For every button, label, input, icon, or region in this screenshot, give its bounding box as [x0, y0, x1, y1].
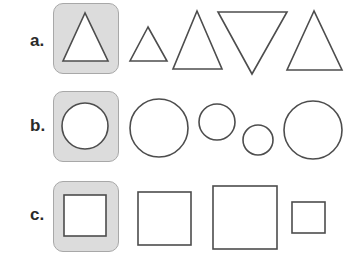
square-large [213, 186, 277, 249]
triangle-inverted [218, 12, 287, 74]
circle-medium [199, 104, 235, 140]
circle-large-1 [130, 99, 188, 157]
triangle-highlighted [63, 13, 108, 61]
circle-highlighted [62, 103, 108, 149]
shapes-canvas [0, 0, 356, 256]
triangle-medium [173, 11, 222, 69]
circle-large-2 [284, 101, 342, 159]
triangle-large [287, 11, 342, 70]
triangle-small [130, 27, 167, 61]
square-medium [138, 192, 191, 245]
square-small [292, 202, 325, 233]
circle-small [243, 125, 273, 155]
square-highlighted [64, 195, 106, 236]
